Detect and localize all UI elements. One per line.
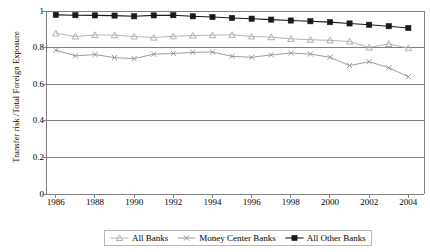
legend-marker-cross-icon [177,233,196,243]
legend-marker-square-icon [285,233,304,243]
x-tick-label: 2004 [388,198,428,207]
legend-label: Money Center Banks [199,234,276,243]
x-tick-label: 1988 [75,198,115,207]
x-tick-label: 1996 [232,198,272,207]
x-tick-label: 1986 [36,198,76,207]
data-point-square [292,235,297,240]
x-tick-label: 1998 [271,198,311,207]
x-axis-tick-labels: 1986198819901992199419961998200020022004 [0,0,430,252]
x-tick-label: 1994 [192,198,232,207]
chart-container: Transfer risk /Total Foreign Exposure 00… [0,0,430,252]
legend-item-money-center-banks[interactable]: Money Center Banks [177,233,276,243]
x-tick-label: 1990 [114,198,154,207]
legend-item-all-banks[interactable]: All Banks [110,233,168,243]
x-tick-label: 1992 [153,198,193,207]
legend-marker-triangle-icon [110,233,129,243]
legend-item-all-other-banks[interactable]: All Other Banks [285,233,366,243]
x-tick-label: 2002 [349,198,389,207]
chart-legend: All BanksMoney Center BanksAll Other Ban… [104,230,372,246]
legend-label: All Other Banks [307,234,366,243]
legend-label: All Banks [132,234,168,243]
x-tick-label: 2000 [310,198,350,207]
